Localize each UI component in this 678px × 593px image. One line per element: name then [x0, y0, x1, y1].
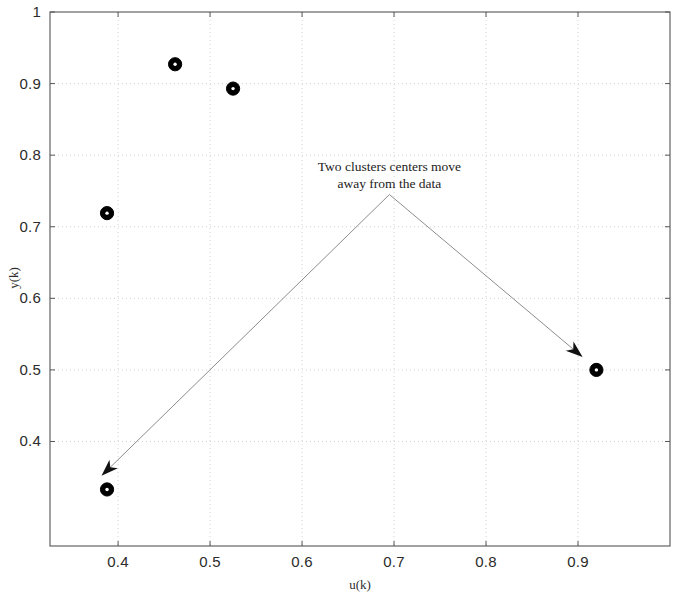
annotation-label: Two clusters centers move away from the … [279, 158, 499, 193]
annotation-line-2: away from the data [279, 175, 499, 192]
x-tick-label: 0.9 [548, 553, 608, 570]
axes-frame [50, 12, 670, 546]
scatter-plot-figure: 10.90.80.70.60.50.4 0.40.50.60.70.80.9 u… [0, 0, 678, 593]
axis-tick-marks [50, 12, 670, 546]
x-tick-label: 0.4 [88, 553, 148, 570]
y-tick-label: 0.8 [20, 146, 41, 163]
y-tick-label: 0.9 [20, 75, 41, 92]
y-axis-title: y(k) [6, 228, 22, 328]
x-tick-label: 0.6 [272, 553, 332, 570]
x-axis-title: u(k) [310, 577, 410, 593]
x-tick-label: 0.5 [180, 553, 240, 570]
x-tick-label: 0.7 [364, 553, 424, 570]
y-tick-label: 0.7 [20, 218, 41, 235]
grid-lines [50, 12, 670, 546]
data-point-markers [100, 58, 603, 496]
annotation-line-1: Two clusters centers move [279, 158, 499, 175]
plot-canvas [0, 0, 678, 593]
y-tick-label: 0.6 [20, 289, 41, 306]
y-tick-label: 0.5 [20, 361, 41, 378]
annotation-arrows [102, 195, 583, 476]
y-tick-label: 1 [32, 3, 41, 20]
y-tick-label: 0.4 [20, 432, 41, 449]
x-tick-label: 0.8 [456, 553, 516, 570]
